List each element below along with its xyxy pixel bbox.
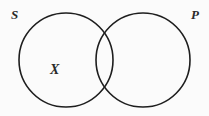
set-label-p: P bbox=[191, 8, 199, 21]
marker-x: X bbox=[50, 63, 59, 77]
venn-circles bbox=[0, 0, 209, 116]
venn-diagram: S P X bbox=[0, 0, 209, 116]
circle-s bbox=[19, 13, 113, 107]
set-label-s: S bbox=[11, 8, 18, 21]
circle-p bbox=[96, 13, 190, 107]
